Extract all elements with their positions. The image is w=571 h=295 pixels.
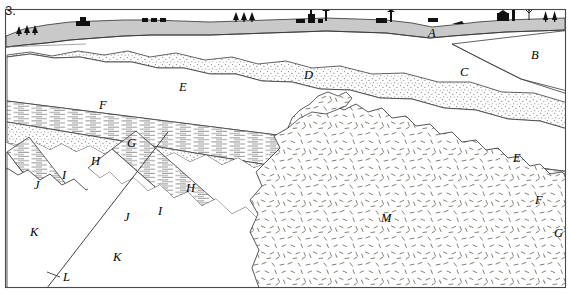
cross-section-svg: A B C D E E F F G G H H I I J J K K L M [0,0,571,295]
label-unit-k-left: K [29,225,39,239]
label-unit-e: E [178,80,187,94]
label-unit-d: D [303,68,313,82]
label-unit-h-lower: H [185,181,196,195]
label-unit-a: A [427,26,436,40]
label-unit-h-upper: H [90,154,101,168]
label-unit-e-right: E [512,151,521,165]
label-unit-i-lower: I [157,204,163,218]
label-unit-g-right: G [554,226,563,240]
figure-canvas: 3. [0,0,571,295]
houses-row [142,18,166,22]
conifer-trees-mid [233,12,255,22]
figure-number: 3. [5,3,16,18]
bare-deciduous-tree [524,6,534,20]
house-right [428,18,438,22]
label-unit-m: M [380,211,392,225]
label-unit-g: G [127,136,136,150]
low-building [452,21,464,24]
label-fault-l: L [62,270,70,284]
label-unit-k-right: K [112,250,122,264]
label-unit-b: B [531,48,539,62]
label-unit-f: F [98,98,107,112]
factory-with-smokestack [497,5,515,21]
label-unit-c: C [460,65,469,79]
label-unit-i-upper: I [61,168,67,182]
label-unit-f-right: F [534,193,543,207]
conifer-trees-left [16,25,38,36]
house-left [76,17,90,26]
